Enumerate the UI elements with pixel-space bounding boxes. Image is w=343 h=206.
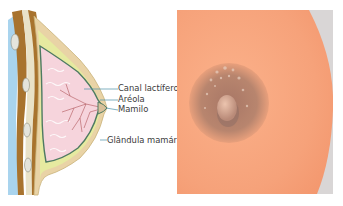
label-canal-lactifero: Canal lactífero	[118, 84, 179, 92]
label-glandula-mamaria: Glândula mamária	[107, 136, 185, 144]
areola-nipple-photo	[177, 10, 333, 194]
rib-oval	[23, 78, 30, 92]
breast-anatomy-diagram: Canal lactífero Aréola Mamilo Glândula m…	[0, 0, 180, 206]
label-areola: Aréola	[118, 95, 145, 103]
rib-oval	[11, 34, 19, 50]
nipple	[217, 95, 237, 121]
photo-illustration	[177, 10, 333, 194]
label-mamilo: Mamilo	[118, 105, 148, 113]
rib-oval	[25, 158, 32, 172]
rib-oval	[24, 123, 31, 137]
breast-cross-section-illustration	[0, 0, 180, 206]
